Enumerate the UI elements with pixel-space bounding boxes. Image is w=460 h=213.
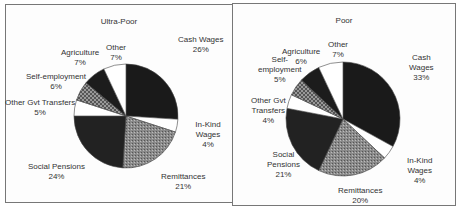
label-cash-wages: Cash Wages 26% <box>178 35 224 55</box>
poor-chart-panel: Poor Cash Wages 33% In-Kind Wages 4% Rem… <box>232 3 456 206</box>
ultra-poor-chart-panel: Ultra-Poor Cash Wages 26% In-Kind Wages … <box>5 4 233 203</box>
label-social-pensions: Social Pensions 24% <box>28 162 85 182</box>
label-other-gvt-transfers: Other Gvt Transfers 5% <box>5 98 75 118</box>
label-remittances: Remittances 20% <box>338 186 382 206</box>
label-remittances: Remittances 21% <box>161 172 205 192</box>
pie-slice-social-pensions <box>74 116 126 168</box>
label-self-employment: Self-employment 6% <box>26 72 86 92</box>
label-cash-wages: Cash Wages 33% <box>409 53 434 83</box>
label-other: Other 7% <box>328 40 348 60</box>
label-agriculture: Agriculture 7% <box>61 48 99 68</box>
label-other-gvt-transfers: Other Gvt Transfers 4% <box>251 96 286 126</box>
label-social-pensions: Social Pensions 21% <box>267 150 300 180</box>
label-agriculture: Agriculture 6% <box>282 47 320 67</box>
label-in-kind-wages: In-Kind Wages 4% <box>184 120 232 150</box>
label-in-kind-wages: In-Kind Wages 4% <box>407 156 432 186</box>
label-other: Other 7% <box>106 43 126 63</box>
pie-slice-cash-wages <box>126 64 178 119</box>
